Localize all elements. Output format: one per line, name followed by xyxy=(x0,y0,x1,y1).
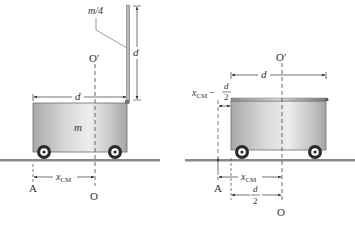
rod-joint xyxy=(125,100,130,104)
cart-mass-label: m xyxy=(74,121,82,133)
axis-bottom-label-left: O xyxy=(90,190,98,202)
point-a-label-right: A xyxy=(214,182,222,194)
ground-right xyxy=(185,159,355,162)
cart-width-label-left: d xyxy=(75,90,81,102)
svg-text:d: d xyxy=(224,81,229,91)
offset-label: xCM− d 2 xyxy=(191,81,231,102)
wheel-left-rear xyxy=(108,145,122,159)
axis-top-label-left: O′ xyxy=(89,52,99,64)
left-figure: m/4 d O′ d m A xCM O xyxy=(0,5,160,202)
rod-on-top xyxy=(231,98,327,101)
svg-text:2: 2 xyxy=(253,196,258,206)
svg-text:2: 2 xyxy=(224,92,229,102)
wheel-right-rear xyxy=(308,145,322,159)
cart-body-right xyxy=(231,101,326,150)
svg-text:xCM−: xCM− xyxy=(191,87,215,100)
cart-width-label-right: d xyxy=(261,68,267,80)
rod-mass-leader xyxy=(96,18,127,48)
axis-bottom-label-right: O xyxy=(277,206,285,218)
rod-length-label: d xyxy=(133,46,139,58)
right-figure: O′ d xCM− d 2 A xCM d 2 O xyxy=(185,51,355,218)
diagram-canvas: m/4 d O′ d m A xCM O xyxy=(0,0,355,226)
axis-top-label-right: O′ xyxy=(276,51,286,63)
ground-left xyxy=(0,159,160,162)
rod xyxy=(127,5,130,102)
point-a-label-left: A xyxy=(29,182,37,194)
svg-text:d: d xyxy=(253,184,258,194)
wheel-left-front xyxy=(37,145,51,159)
rod-mass-label: m/4 xyxy=(88,5,103,16)
wheel-right-front xyxy=(235,145,249,159)
